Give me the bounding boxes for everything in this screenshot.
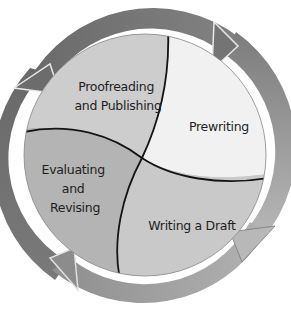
stage-label-prewriting: Prewriting bbox=[189, 119, 249, 134]
writing-process-cycle-diagram: Proofreading and Publishing Prewriting E… bbox=[0, 0, 291, 310]
stage-label-writing-draft: Writing a Draft bbox=[148, 218, 236, 233]
